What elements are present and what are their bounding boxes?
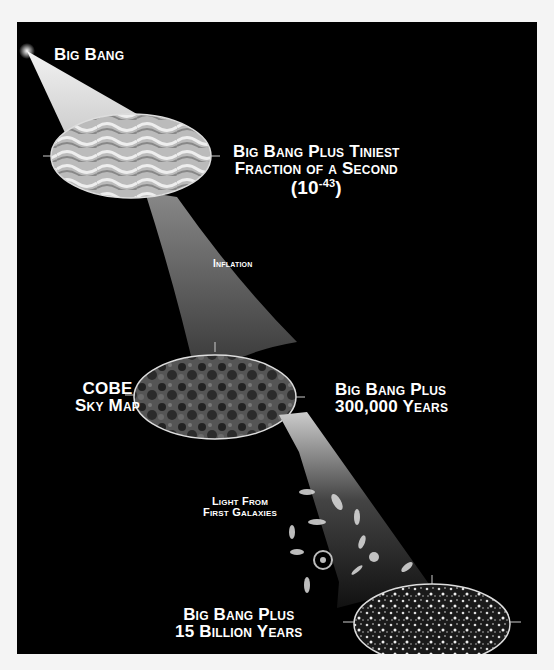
timeline-graphic (17, 22, 537, 654)
beam-inflation (145, 192, 297, 382)
label-big-bang: Big Bang (54, 46, 124, 63)
ellipse-tiniest-fraction (51, 114, 211, 198)
beam-galaxies (279, 412, 429, 608)
diagram-panel: Big Bang Big Bang Plus Tiniest Fraction … (17, 22, 537, 654)
label-inflation: Inflation (213, 259, 252, 269)
label-first-galaxies: Light From First Galaxies (203, 496, 277, 518)
label-15-billion-years: Big Bang Plus 15 Billion Years (175, 606, 303, 640)
big-bang-point (19, 43, 35, 59)
label-cobe-sky-map: COBE Sky Map (75, 380, 140, 414)
ellipse-cobe (134, 355, 296, 439)
label-tiniest-fraction: Big Bang Plus Tiniest Fraction of a Seco… (233, 143, 400, 197)
label-300000-years: Big Bang Plus 300,000 Years (335, 381, 448, 415)
exponent-notation: (10-43) (233, 178, 400, 197)
